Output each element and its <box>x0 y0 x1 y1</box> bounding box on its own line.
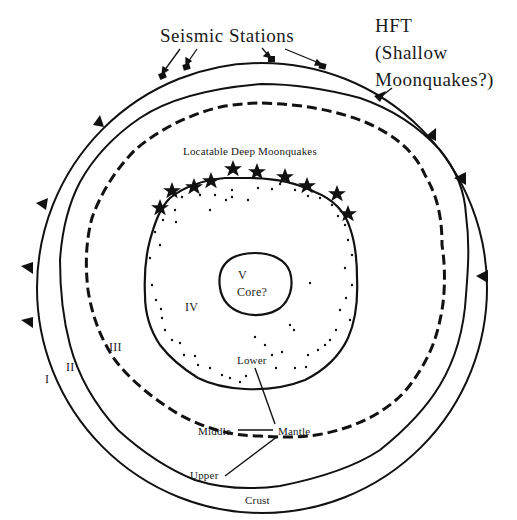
triangle-marker-icon <box>21 262 33 274</box>
zone-i-label: I <box>45 372 49 387</box>
deep-moonquakes-label: Locatable Deep Moonquakes <box>183 145 317 157</box>
zone-ii-label: II <box>66 360 75 375</box>
hft-shallow-label: (Shallow <box>375 42 448 64</box>
triangle-marker-icon <box>374 91 386 102</box>
star-icon <box>328 185 346 201</box>
zone-v-label: V <box>238 268 247 283</box>
star-icon <box>224 160 242 176</box>
hft-moonquakes-label: Moonquakes?) <box>375 69 494 91</box>
star-icon <box>185 178 203 194</box>
triangle-marker-icon <box>476 270 488 283</box>
hft-label: HFT <box>375 15 412 37</box>
upper-mantle-label: Upper <box>190 469 219 481</box>
mantle-connector-lines <box>225 368 278 476</box>
mantle-label: Mantle <box>278 425 310 437</box>
middle-mantle-label: Middle <box>198 425 231 437</box>
star-icon <box>248 163 266 179</box>
triangle-marker-icon <box>21 317 33 328</box>
lower-mantle-label: Lower <box>237 354 267 366</box>
crust-label: Crust <box>245 494 270 506</box>
triangle-marker-icon <box>36 198 48 210</box>
seismic-stations-label: Seismic Stations <box>160 25 294 47</box>
star-icon <box>202 172 220 188</box>
zone-iv-label: IV <box>185 300 198 315</box>
star-icon <box>339 205 357 221</box>
triangle-marker-icon <box>93 115 104 127</box>
zone-iii-label: III <box>109 340 122 355</box>
core-label: Core? <box>237 285 267 300</box>
